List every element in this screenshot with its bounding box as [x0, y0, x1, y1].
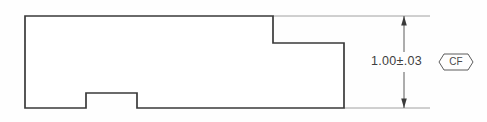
dimension-value-text: 1.00±.03: [371, 54, 422, 68]
technical-drawing-screenshot: 1.00±.03 CF: [0, 0, 487, 122]
part-outline-path: [25, 16, 344, 108]
cf-callout-label: CF: [449, 56, 463, 67]
dimension-arrow-top: [401, 16, 407, 26]
dimension-arrow-bottom: [401, 99, 407, 109]
engineering-drawing-canvas: 1.00±.03 CF: [0, 0, 487, 122]
cf-callout-group: CF: [439, 54, 473, 70]
